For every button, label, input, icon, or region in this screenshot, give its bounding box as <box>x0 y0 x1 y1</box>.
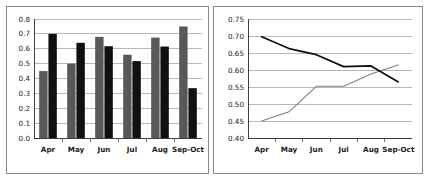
bar-series-1 <box>179 26 187 138</box>
x-axis-tick-label: Apr <box>255 145 270 154</box>
bar-series-1 <box>67 64 75 138</box>
y-axis-tick-label: 0.55 <box>228 83 244 92</box>
y-axis-tick-label: 0.2 <box>19 104 30 113</box>
y-axis-tick-label: 0.75 <box>228 15 244 24</box>
y-axis-tick-label: 0.4 <box>19 74 31 83</box>
bar-series-2 <box>76 43 84 138</box>
bar-series-2 <box>160 47 168 138</box>
y-axis-tick-label: 0.8 <box>19 15 31 24</box>
y-axis-tick-label: 0.40 <box>228 134 244 143</box>
bar-series-2 <box>188 88 196 138</box>
x-axis-tick-label: Jul <box>338 145 349 154</box>
line-series-1 <box>262 65 399 121</box>
x-axis-tick-label: May <box>281 145 298 154</box>
y-axis-tick-label: 0.7 <box>19 29 30 38</box>
x-axis-tick-label: Jun <box>97 145 111 154</box>
x-axis-tick-label: May <box>68 145 85 154</box>
x-axis-tick-label: Jun <box>309 145 323 154</box>
bar-series-1 <box>95 37 103 138</box>
bar-chart-plot: 0.00.10.20.30.40.50.60.70.8AprMayJunJulA… <box>7 7 208 173</box>
y-axis-tick-label: 0.6 <box>19 44 31 53</box>
y-axis-tick-label: 0.3 <box>19 89 30 98</box>
x-axis-tick-label: Jul <box>126 145 137 154</box>
bar-series-2 <box>104 46 112 138</box>
x-axis-tick-label: Apr <box>41 145 56 154</box>
y-axis-tick-label: 0.50 <box>228 100 244 109</box>
line-chart-plot: 0.400.450.500.550.600.650.700.75AprMayJu… <box>214 7 422 173</box>
y-axis-tick-label: 0.45 <box>228 117 244 126</box>
x-axis-tick-label: Sep-Oct <box>172 145 205 154</box>
bar-series-1 <box>123 55 131 138</box>
x-axis-tick-label: Aug <box>152 145 168 154</box>
bar-series-1 <box>39 71 47 138</box>
x-axis-tick-label: Sep-Oct <box>382 145 415 154</box>
x-axis-tick-label: Aug <box>363 145 379 154</box>
bar-series-2 <box>132 61 140 138</box>
line-series-2 <box>262 37 399 82</box>
y-axis-tick-label: 0.60 <box>228 66 244 75</box>
y-axis-tick-label: 0.5 <box>19 59 30 68</box>
y-axis-tick-label: 0.70 <box>228 32 244 41</box>
figure-container: 0.00.10.20.30.40.50.60.70.8AprMayJunJulA… <box>0 0 431 184</box>
bar-series-1 <box>151 38 159 138</box>
bar-chart-panel: 0.00.10.20.30.40.50.60.70.8AprMayJunJulA… <box>6 6 209 174</box>
y-axis-tick-label: 0.0 <box>19 134 31 143</box>
bar-series-2 <box>48 34 56 138</box>
y-axis-tick-label: 0.1 <box>19 119 30 128</box>
line-chart-panel: 0.400.450.500.550.600.650.700.75AprMayJu… <box>213 6 423 174</box>
y-axis-tick-label: 0.65 <box>228 49 244 58</box>
